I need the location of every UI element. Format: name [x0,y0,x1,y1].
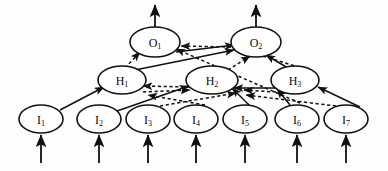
node-subscript-h1: 1 [124,80,128,89]
node-subscript-i3: 3 [148,119,152,128]
node-o1[interactable]: O1 [130,27,180,57]
node-o2[interactable]: O2 [231,27,281,57]
edge-H1-H2-dashed [143,90,190,92]
node-i4[interactable]: I4 [174,105,218,133]
node-i1[interactable]: I1 [19,105,63,133]
edge-H2-O2-dashed [228,56,250,70]
node-subscript-o2: 2 [258,42,262,51]
edge-I7-H2-dashed [246,95,336,106]
node-subscript-h2: 2 [214,80,218,89]
node-i2[interactable]: I2 [77,105,121,133]
node-subscript-i6: 6 [297,119,301,128]
node-h2[interactable]: H2 [186,66,238,94]
network-canvas: O1O2H1H2H3I1I2I3I4I5I6I7 [0,0,388,171]
node-i5[interactable]: I5 [223,105,267,133]
node-subscript-i2: 2 [99,119,103,128]
node-i6[interactable]: I6 [275,105,319,133]
edge-O2-O1-dashed [181,46,231,47]
edge-H3-O2 [266,55,288,68]
node-h1[interactable]: H1 [98,66,146,94]
node-i7[interactable]: I7 [324,105,368,133]
node-h3[interactable]: H3 [271,66,319,94]
node-subscript-i1: 1 [41,119,45,128]
node-subscript-h3: 3 [297,80,301,89]
node-i3[interactable]: I3 [126,105,170,133]
node-subscript-o1: 1 [157,42,161,51]
node-subscript-i7: 7 [346,119,350,128]
edge-H2-H1-dashed [143,86,190,87]
neural-network-diagram: O1O2H1H2H3I1I2I3I4I5I6I7 [0,0,388,171]
node-subscript-i5: 5 [245,119,249,128]
nodes-group: O1O2H1H2H3I1I2I3I4I5I6I7 [19,27,368,133]
node-subscript-i4: 4 [196,119,200,128]
